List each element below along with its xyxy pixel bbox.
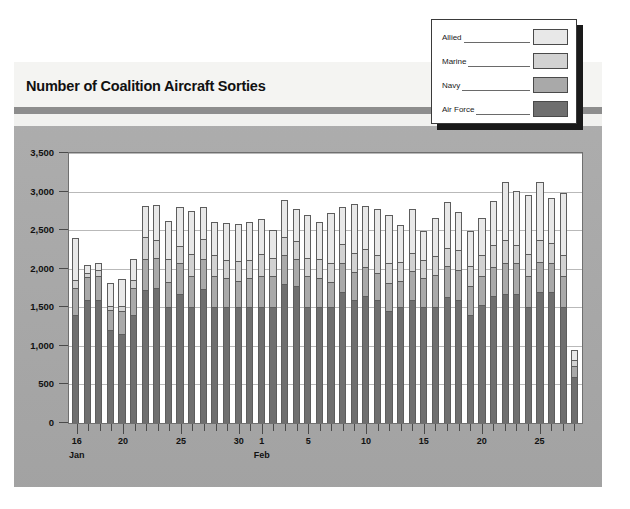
bar[interactable] [258,219,265,423]
bar[interactable] [118,279,125,423]
bar-segment-allied [153,205,160,240]
x-axis-tick-label: 20 [477,436,487,446]
bar[interactable] [95,263,102,423]
bar[interactable] [420,231,427,423]
bar[interactable] [525,195,532,423]
bar-segment-allied [246,222,253,261]
bar-segment-marine [327,263,334,282]
bar[interactable] [281,200,288,423]
bar-segment-marine [385,263,392,282]
bar-segment-air-force [467,315,474,423]
x-axis-tick-mark [285,424,286,431]
x-axis-tick-mark [505,424,506,431]
x-axis-tick-label: 25 [534,436,544,446]
bar[interactable] [304,215,311,423]
y-axis-tick-mark [59,268,68,269]
bar-segment-navy [165,282,172,307]
bar-segment-allied [118,279,125,306]
bar[interactable] [142,206,149,423]
bar-segment-allied [293,209,300,241]
bar[interactable] [107,283,114,423]
legend-item[interactable]: Marine [442,51,568,71]
bar-segment-navy [176,263,183,294]
bar-segment-navy [200,259,207,288]
bar-segment-navy [397,281,404,307]
x-axis-tick-mark [401,424,402,431]
bar-segment-allied [409,209,416,254]
bar[interactable] [513,191,520,423]
bar-segment-navy [304,276,311,307]
bar[interactable] [153,205,160,423]
bar[interactable] [571,350,578,423]
x-axis-tick-mark [366,424,367,434]
bar[interactable] [490,201,497,423]
legend-box: AlliedMarineNavyAir Force [431,19,577,124]
bar[interactable] [444,202,451,423]
bar[interactable] [548,198,555,423]
bar-segment-marine [176,246,183,264]
x-axis: 16Jan2025301Feb510152025 [68,424,583,464]
bar[interactable] [246,222,253,423]
bar[interactable] [351,204,358,423]
bar-segment-allied [327,213,334,262]
bar[interactable] [235,224,242,423]
bar[interactable] [211,222,218,423]
bar[interactable] [478,218,485,423]
bar[interactable] [269,230,276,423]
bar-segment-navy [525,276,532,307]
bar[interactable] [374,209,381,423]
bar[interactable] [223,223,230,423]
bar-segment-allied [235,224,242,261]
legend-item[interactable]: Air Force [442,99,568,119]
bar[interactable] [84,265,91,423]
bar-segment-air-force [385,311,392,423]
bar[interactable] [385,215,392,423]
x-axis-tick-mark [424,424,425,434]
x-axis-tick-mark [100,424,101,431]
bar-segment-allied [362,206,369,249]
bar[interactable] [165,221,172,423]
bar[interactable] [316,222,323,423]
bar[interactable] [200,207,207,423]
bar[interactable] [397,225,404,423]
y-axis-tick-mark [59,345,68,346]
x-axis-tick-mark [540,424,541,434]
bar-segment-air-force [258,307,265,423]
bar[interactable] [455,212,462,423]
bar-segment-marine [420,260,427,278]
bar[interactable] [432,218,439,423]
bar[interactable] [502,182,509,423]
bar[interactable] [560,193,567,423]
bar[interactable] [339,207,346,423]
legend-item[interactable]: Navy [442,75,568,95]
y-axis-tick-label: 1,000 [2,339,54,350]
bar-segment-navy [478,276,485,305]
bar[interactable] [188,211,195,423]
bar-segment-marine [72,280,79,288]
bar-segment-marine [455,250,462,270]
bar-segment-marine [362,249,369,267]
bar-segment-air-force [362,296,369,423]
bar[interactable] [72,238,79,423]
legend-item[interactable]: Allied [442,27,568,47]
bar-segment-marine [397,262,404,281]
x-axis-tick-mark [320,424,321,431]
bar-segment-allied [560,193,567,255]
x-axis-tick-mark [204,424,205,431]
bar-segment-allied [478,218,485,255]
bar[interactable] [536,182,543,423]
bar[interactable] [362,206,369,423]
bar-segment-navy [339,263,346,292]
bar[interactable] [293,209,300,423]
bar-segment-navy [502,263,509,294]
bar-segment-air-force [490,296,497,423]
legend-color-swatch [533,53,568,69]
x-axis-tick-mark [227,424,228,431]
bar[interactable] [467,231,474,423]
y-axis: 05001,0001,5002,0002,5003,0003,500 [0,152,68,422]
bar[interactable] [327,213,334,423]
bar[interactable] [409,209,416,423]
bar[interactable] [130,259,137,423]
bar[interactable] [176,207,183,423]
y-axis-tick-label: 0 [2,417,54,428]
